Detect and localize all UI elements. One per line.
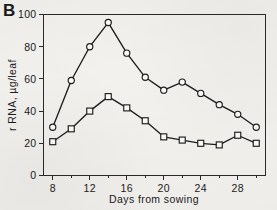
y-tick-label: 60 bbox=[24, 73, 36, 85]
data-point-square bbox=[235, 132, 241, 138]
y-tick-label: 80 bbox=[24, 41, 36, 53]
figure-panel-b: B 020406080100 81216202428 Days from sow… bbox=[0, 0, 277, 210]
x-tick-label: 16 bbox=[121, 182, 133, 194]
series-lower-curve bbox=[50, 94, 260, 148]
x-axis-ticks: 81216202428 bbox=[50, 176, 257, 194]
chart-series-layer bbox=[50, 19, 260, 147]
data-point-square bbox=[124, 105, 130, 111]
y-axis-title: r RNA, µg/leaf bbox=[6, 59, 18, 131]
x-tick-label: 24 bbox=[195, 182, 207, 194]
series-upper-curve bbox=[50, 19, 260, 130]
data-point-circle bbox=[124, 50, 130, 56]
data-point-circle bbox=[142, 74, 148, 80]
y-axis-ticks: 020406080100 bbox=[18, 8, 43, 181]
data-point-square bbox=[87, 108, 93, 114]
x-tick-label: 12 bbox=[84, 182, 96, 194]
data-point-square bbox=[179, 137, 185, 143]
data-point-circle bbox=[198, 90, 204, 96]
data-point-square bbox=[216, 142, 222, 148]
line-chart: 020406080100 81216202428 Days from sowin… bbox=[0, 0, 277, 210]
data-point-square bbox=[68, 126, 74, 132]
data-point-circle bbox=[68, 77, 74, 83]
data-point-circle bbox=[105, 19, 111, 25]
x-axis-title: Days from sowing bbox=[109, 193, 199, 205]
chart-axes bbox=[43, 14, 266, 176]
y-tick-label: 0 bbox=[30, 169, 36, 181]
y-tick-label: 20 bbox=[24, 137, 36, 149]
data-point-square bbox=[50, 139, 56, 145]
series-line bbox=[53, 97, 257, 145]
x-tick-label: 28 bbox=[232, 182, 244, 194]
data-point-circle bbox=[179, 79, 185, 85]
y-tick-label: 100 bbox=[18, 8, 36, 20]
data-point-circle bbox=[161, 87, 167, 93]
data-point-square bbox=[198, 140, 204, 146]
data-point-circle bbox=[50, 124, 56, 130]
data-point-square bbox=[105, 94, 111, 100]
y-tick-label: 40 bbox=[24, 105, 36, 117]
data-point-square bbox=[161, 134, 167, 140]
data-point-circle bbox=[253, 124, 259, 130]
data-point-circle bbox=[216, 102, 222, 108]
series-line bbox=[53, 23, 257, 128]
data-point-square bbox=[142, 118, 148, 124]
data-point-square bbox=[253, 140, 259, 146]
x-tick-label: 20 bbox=[158, 182, 170, 194]
x-tick-label: 8 bbox=[50, 182, 56, 194]
data-point-circle bbox=[87, 44, 93, 50]
data-point-circle bbox=[235, 111, 241, 117]
